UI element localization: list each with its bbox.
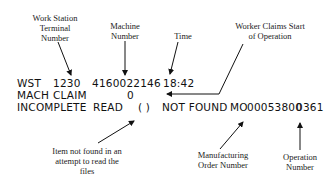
arrow-work-station (58, 42, 71, 75)
arrow-mo-number (220, 122, 243, 149)
annotation-arrows (0, 0, 333, 179)
arrow-time (170, 42, 178, 74)
arrow-item-not-found (98, 121, 134, 143)
arrow-worker-claims (167, 44, 243, 94)
